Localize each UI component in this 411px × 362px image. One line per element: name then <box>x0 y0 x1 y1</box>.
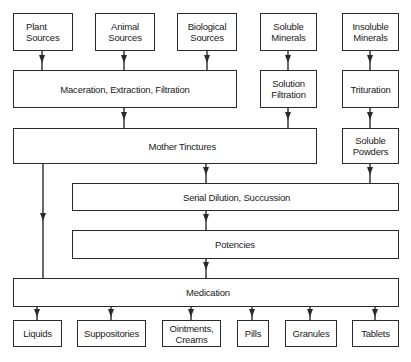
node-solution-filtration: Solution Filtration <box>260 70 317 108</box>
node-label: Medication <box>186 287 230 298</box>
node-plant-sources: Plant Sources <box>13 13 73 51</box>
node-label: Ointments, Creams <box>170 323 214 345</box>
node-label: Animal Sources <box>108 21 141 43</box>
node-label: Maceration, Extraction, Filtration <box>60 84 189 95</box>
node-serial-dilution-succussion: Serial Dilution, Succussion <box>72 183 399 211</box>
node-trituration: Trituration <box>342 70 399 108</box>
node-potencies: Potencies <box>72 230 399 259</box>
node-biological-sources: Biological Sources <box>177 13 237 51</box>
node-label: Mother Tinctures <box>148 141 216 152</box>
node-label: Granules <box>293 328 330 339</box>
connector-arrows <box>0 0 411 362</box>
node-label: Solution Filtration <box>271 78 305 100</box>
node-label: Serial Dilution, Succussion <box>183 192 290 203</box>
node-label: Potencies <box>215 239 255 250</box>
node-tablets: Tablets <box>352 320 399 347</box>
node-liquids: Liquids <box>13 320 62 347</box>
node-label: Pills <box>245 328 261 339</box>
node-label: Suppositories <box>84 328 139 339</box>
node-label: Liquids <box>23 328 52 339</box>
node-granules: Granules <box>285 320 337 347</box>
node-label: Soluble Minerals <box>271 21 305 43</box>
node-animal-sources: Animal Sources <box>95 13 155 51</box>
node-label: Plant Sources <box>26 21 59 43</box>
node-label: Tablets <box>361 328 390 339</box>
node-label: Soluble Powders <box>353 135 389 157</box>
node-maceration-extraction-filtration: Maceration, Extraction, Filtration <box>13 70 237 108</box>
node-ointments-creams: Ointments, Creams <box>162 320 221 347</box>
node-label: Insoluble Minerals <box>352 21 388 43</box>
node-medication: Medication <box>13 278 399 307</box>
node-soluble-powders: Soluble Powders <box>342 128 399 164</box>
node-soluble-minerals: Soluble Minerals <box>260 13 317 51</box>
node-label: Biological Sources <box>188 21 227 43</box>
node-mother-tinctures: Mother Tinctures <box>13 128 317 164</box>
node-suppositories: Suppositories <box>77 320 146 347</box>
node-label: Trituration <box>350 84 390 95</box>
node-pills: Pills <box>237 320 269 347</box>
node-insoluble-minerals: Insoluble Minerals <box>342 13 399 51</box>
